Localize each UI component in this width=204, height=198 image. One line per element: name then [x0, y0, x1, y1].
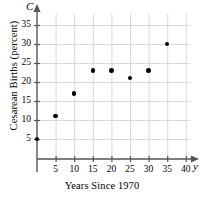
data-point: [146, 68, 151, 73]
y-tick-label: 5: [15, 133, 31, 143]
y-tick-label: 35: [15, 19, 31, 29]
scatter-plot-figure: C y Cesarean Births (percent) Years Sinc…: [0, 0, 204, 198]
y-axis-arrowhead: [33, 4, 40, 12]
y-axis-variable-label: C: [26, 0, 33, 12]
y-tick-label: 15: [15, 95, 31, 105]
x-tick-label: 40: [175, 164, 197, 174]
data-point: [91, 68, 96, 73]
data-point: [109, 68, 114, 73]
x-axis-title: Years Since 1970: [0, 180, 204, 191]
y-tick-label: 10: [15, 114, 31, 124]
y-tick-label: 30: [15, 38, 31, 48]
y-tick-label: 25: [15, 57, 31, 67]
y-tick-label: 20: [15, 76, 31, 86]
